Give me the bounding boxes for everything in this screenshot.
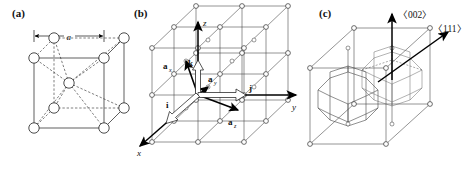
- lattice-point: [286, 98, 291, 103]
- unit-vector-k-arrow: [193, 60, 204, 95]
- atom-corner: [119, 103, 129, 113]
- body-diagonal-8: [69, 83, 124, 108]
- lattice-point: [384, 142, 389, 147]
- axis-x-label: x: [136, 148, 141, 158]
- body-diagonal-5: [54, 38, 69, 83]
- unit-vector-j-arrow: [198, 89, 246, 101]
- atom-body-centre: [64, 78, 74, 88]
- vector-a-x-subscript: x: [168, 67, 172, 73]
- unit-vector-k-label: k: [188, 58, 193, 68]
- lattice-point: [242, 46, 247, 51]
- atom-corner: [49, 103, 59, 113]
- axis-z-label: z: [202, 18, 207, 28]
- lattice-point: [194, 4, 199, 9]
- body-diagonal-4: [69, 83, 104, 128]
- body-diagonal-6: [69, 38, 124, 83]
- unit-vectors-b: k j i: [166, 58, 252, 124]
- panel-a-label: (a): [12, 7, 25, 20]
- crystallography-figure: (a) a: [0, 0, 475, 187]
- lattice-point-centre: [230, 59, 234, 63]
- lattice-point: [150, 140, 155, 145]
- lattice-point-centre: [346, 46, 350, 50]
- vector-a-x-label: a x: [163, 61, 172, 73]
- lattice-point: [242, 140, 247, 145]
- panel-a: (a) a: [12, 7, 129, 133]
- atom-corner: [49, 33, 59, 43]
- atom-corner: [99, 123, 109, 133]
- lattice-c-nodes: [308, 26, 433, 147]
- lattice-point: [428, 102, 433, 107]
- atom-corner: [99, 53, 109, 63]
- lattice-point: [150, 46, 155, 51]
- lattice-point: [172, 72, 177, 77]
- panel-b: (b): [134, 4, 296, 158]
- lattice-point: [428, 26, 433, 31]
- vector-a-y-label: a y: [208, 74, 217, 86]
- lattice-point: [264, 119, 269, 124]
- lattice-parameter-label: a: [67, 32, 72, 42]
- axes-b: z y x: [136, 18, 296, 158]
- lattice-point: [352, 102, 357, 107]
- lattice-point: [218, 72, 223, 77]
- lattice-point-centre: [346, 122, 350, 126]
- lattice-point: [172, 25, 177, 30]
- lattice-point: [218, 25, 223, 30]
- ws1-edge: [318, 90, 330, 96]
- lattice-point: [218, 119, 223, 124]
- panel-c-label: (c): [319, 7, 332, 20]
- lattice-b-nodes: [150, 4, 291, 145]
- lattice-point-centre: [252, 85, 256, 89]
- lattice-point: [264, 72, 269, 77]
- lattice-point: [240, 4, 245, 9]
- lattice-point: [308, 66, 313, 71]
- atom-corner: [29, 53, 39, 63]
- panel-b-label: (b): [134, 7, 148, 20]
- body-diagonal-2: [69, 58, 104, 83]
- lattice-point: [196, 140, 201, 145]
- vector-a-z-subscript: z: [233, 123, 237, 129]
- vector-a-y-base: a: [208, 74, 213, 84]
- lattice-point: [384, 66, 389, 71]
- atom-corner: [29, 123, 39, 133]
- unit-vector-j-label: j: [248, 83, 252, 93]
- ws2-edge: [362, 70, 374, 76]
- axis-y-label: y: [291, 102, 296, 112]
- lattice-point-centre: [206, 38, 210, 42]
- lattice-point: [264, 25, 269, 30]
- lattice-point: [308, 142, 313, 147]
- vector-a-z-label: a z: [228, 117, 237, 129]
- vector-a-y-subscript: y: [213, 80, 217, 86]
- direction-111-label: 〈111〉: [433, 24, 467, 34]
- lattice-parameter-dimension: a: [34, 30, 104, 42]
- lattice-c-frame: [310, 28, 430, 144]
- lattice-point: [286, 4, 291, 9]
- lattice-point: [286, 51, 291, 56]
- lattice-point: [150, 93, 155, 98]
- direction-002-label: 〈002〉: [398, 10, 432, 20]
- lattice-point: [240, 51, 245, 56]
- lattice-point-centre: [390, 122, 394, 126]
- unit-cell-a-wireframe: [34, 38, 124, 128]
- unit-vector-i-arrow: [166, 93, 200, 124]
- vector-a-x-base: a: [163, 61, 168, 71]
- lattice-point-centre: [252, 38, 256, 42]
- body-diagonal-1: [34, 58, 69, 83]
- panel-c: (c): [308, 7, 467, 146]
- unit-vector-i-label: i: [166, 100, 169, 110]
- vector-a-z-base: a: [228, 117, 233, 127]
- ws2-edge: [410, 70, 422, 76]
- figure-canvas: (a) a: [0, 0, 475, 187]
- lattice-point: [352, 26, 357, 31]
- directions-c: 〈002〉 〈111〉: [378, 10, 467, 82]
- atom-corner: [119, 33, 129, 43]
